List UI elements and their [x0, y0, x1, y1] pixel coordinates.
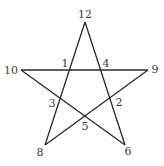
intersection-label-1: 1 [62, 57, 69, 70]
vertex-label-9: 9 [152, 63, 159, 76]
vertex-label-6: 6 [125, 145, 132, 158]
edge-9-8 [45, 70, 148, 145]
intersection-label-2: 2 [116, 96, 123, 109]
pentagram-diagram: 12 9 6 8 10 1 4 3 2 5 [0, 0, 164, 166]
edge-10-6 [21, 70, 125, 145]
intersection-label-3: 3 [49, 97, 56, 110]
vertex-label-8: 8 [37, 146, 44, 159]
vertex-labels: 12 9 6 8 10 [4, 8, 159, 159]
vertex-label-10: 10 [4, 64, 18, 77]
edge-12-8 [45, 22, 85, 145]
intersection-labels: 1 4 3 2 5 [49, 57, 123, 133]
intersection-label-5: 5 [82, 120, 89, 133]
intersection-label-4: 4 [103, 57, 110, 70]
vertex-label-12: 12 [78, 8, 92, 21]
edge-12-6 [85, 22, 125, 145]
